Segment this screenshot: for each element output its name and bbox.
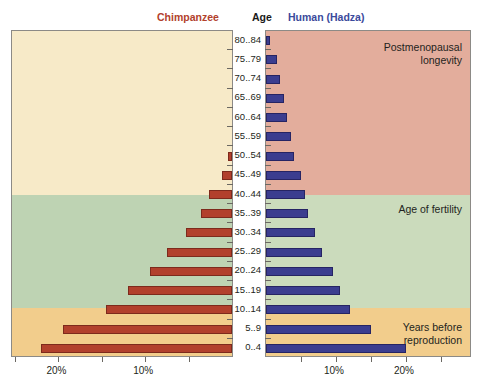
y-tick xyxy=(265,299,271,300)
y-tick xyxy=(227,242,233,243)
bar-chimpanzee-5--9 xyxy=(63,325,232,334)
bar-chimpanzee-35--39 xyxy=(201,209,232,218)
y-tick xyxy=(227,107,233,108)
x-axis-label-chimp-10: 10% xyxy=(133,365,153,376)
y-tick xyxy=(265,88,271,89)
age-label-50--54: 50..54 xyxy=(235,150,261,160)
header-human: Human (Hadza) xyxy=(288,9,364,25)
annotation-postmenopausal: Postmenopausal longevity xyxy=(384,41,462,67)
y-tick xyxy=(227,145,233,146)
bar-chimpanzee-15--19 xyxy=(128,286,232,295)
y-tick xyxy=(227,49,233,50)
y-tick xyxy=(265,107,271,108)
y-tick xyxy=(265,126,271,127)
y-tick xyxy=(265,184,271,185)
age-label-55--59: 55..59 xyxy=(235,131,261,141)
age-label-15--19: 15..19 xyxy=(235,285,261,295)
x-tick-human-15 xyxy=(371,357,372,362)
bar-chimpanzee-30--34 xyxy=(186,228,232,237)
y-tick xyxy=(265,165,271,166)
bar-human-5--9 xyxy=(266,325,371,334)
age-label-80--84: 80..84 xyxy=(235,35,261,45)
bar-human-30--34 xyxy=(266,228,315,237)
x-tick-chimp-20 xyxy=(58,357,59,362)
y-tick xyxy=(265,49,271,50)
x-tick-human-10 xyxy=(336,357,337,362)
bar-human-75--79 xyxy=(266,55,277,64)
x-tick-human-25 xyxy=(441,357,442,362)
y-tick xyxy=(227,280,233,281)
bar-chimpanzee-25--29 xyxy=(167,248,232,257)
age-label-35--39: 35..39 xyxy=(235,208,261,218)
x-axis-label-chimp-20: 20% xyxy=(46,365,66,376)
x-tick-chimp-25 xyxy=(15,357,16,362)
bar-human-35--39 xyxy=(266,209,308,218)
x-tick-human-20 xyxy=(406,357,407,362)
bar-chimpanzee-20--24 xyxy=(150,267,232,276)
y-tick xyxy=(227,68,233,69)
chimpanzee-panel xyxy=(11,30,233,357)
x-tick-chimp-10 xyxy=(145,357,146,362)
y-tick xyxy=(227,338,233,339)
y-tick xyxy=(227,165,233,166)
age-label-75--79: 75..79 xyxy=(235,54,261,64)
age-label-10--14: 10..14 xyxy=(235,304,261,314)
x-tick-chimp-15 xyxy=(102,357,103,362)
bar-human-55--59 xyxy=(266,132,291,141)
y-tick xyxy=(227,299,233,300)
x-tick-human-5 xyxy=(301,357,302,362)
y-tick xyxy=(265,338,271,339)
y-tick xyxy=(227,222,233,223)
age-label-25--29: 25..29 xyxy=(235,246,261,256)
age-label-20--24: 20..24 xyxy=(235,265,261,275)
annotation-prereproduction: Years before reproduction xyxy=(403,321,462,347)
y-tick xyxy=(227,126,233,127)
y-tick xyxy=(227,319,233,320)
bar-human-60--64 xyxy=(266,113,287,122)
age-label-0--4: 0..4 xyxy=(245,342,261,352)
header-age: Age xyxy=(252,9,272,25)
bar-chimpanzee-10--14 xyxy=(106,305,232,314)
y-tick xyxy=(265,261,271,262)
y-tick xyxy=(227,203,233,204)
bar-human-10--14 xyxy=(266,305,350,314)
age-label-70--74: 70..74 xyxy=(235,73,261,83)
bar-human-50--54 xyxy=(266,152,294,161)
bar-human-70--74 xyxy=(266,75,280,84)
y-tick xyxy=(265,280,271,281)
human-panel: Postmenopausal longevity Age of fertilit… xyxy=(265,30,471,357)
bar-chimpanzee-50--54 xyxy=(228,152,232,161)
x-axis-label-human-10: 10% xyxy=(324,365,344,376)
bar-human-15--19 xyxy=(266,286,340,295)
bar-chimpanzee-0--4 xyxy=(41,344,232,353)
bar-human-65--69 xyxy=(266,94,284,103)
bar-human-40--44 xyxy=(266,190,305,199)
bar-human-0--4 xyxy=(266,344,406,353)
bar-human-25--29 xyxy=(266,248,322,257)
bar-human-45--49 xyxy=(266,171,301,180)
bar-chimpanzee-40--44 xyxy=(209,190,232,199)
y-tick xyxy=(227,261,233,262)
y-tick xyxy=(265,319,271,320)
y-tick xyxy=(265,242,271,243)
age-label-45--49: 45..49 xyxy=(235,169,261,179)
x-tick-chimp-5 xyxy=(189,357,190,362)
annotation-fertility: Age of fertility xyxy=(398,203,462,216)
bar-human-20--24 xyxy=(266,267,333,276)
y-tick xyxy=(265,145,271,146)
age-label-30--34: 30..34 xyxy=(235,227,261,237)
age-label-60--64: 60..64 xyxy=(235,112,261,122)
age-label-40--44: 40..44 xyxy=(235,189,261,199)
age-label-65--69: 65..69 xyxy=(235,92,261,102)
chart-header: Chimpanzee Age Human (Hadza) xyxy=(0,9,481,25)
x-axis-label-human-20: 20% xyxy=(394,365,414,376)
header-chimpanzee: Chimpanzee xyxy=(157,9,219,25)
band-postmenopausal-chimp xyxy=(12,31,232,195)
age-label-5--9: 5..9 xyxy=(245,323,261,333)
bar-human-80--84 xyxy=(266,36,270,45)
y-tick xyxy=(265,222,271,223)
y-tick xyxy=(227,88,233,89)
bar-chimpanzee-45--49 xyxy=(222,171,232,180)
y-tick xyxy=(227,184,233,185)
age-axis-column: 80..8475..7970..7465..6960..6455..5950..… xyxy=(233,30,265,357)
